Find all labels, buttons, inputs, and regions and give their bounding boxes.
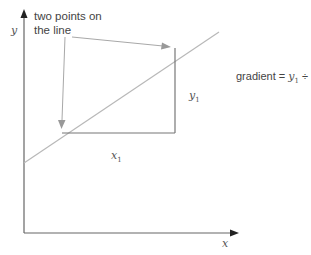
rise-label: y1 bbox=[189, 90, 200, 104]
diagram-canvas bbox=[0, 0, 311, 255]
x-axis-label: x bbox=[222, 238, 228, 249]
run-label: x1 bbox=[111, 150, 122, 164]
pointer-arrow-icon bbox=[58, 120, 66, 129]
callout-line-2: the line bbox=[34, 23, 102, 37]
callout-line-1: two points on bbox=[34, 9, 102, 23]
y-axis-label: y bbox=[11, 25, 17, 36]
y-axis-arrow-icon bbox=[21, 9, 28, 18]
gradient-formula: gradient = y1 ÷ x1 bbox=[236, 71, 311, 85]
pointer-arrow-icon bbox=[161, 43, 171, 50]
callout-text: two points on the line bbox=[34, 9, 102, 37]
pointer-line-to-upper-point bbox=[72, 37, 163, 46]
pointer-line-to-lower-point bbox=[62, 37, 65, 120]
x-axis-arrow-icon bbox=[230, 230, 239, 237]
